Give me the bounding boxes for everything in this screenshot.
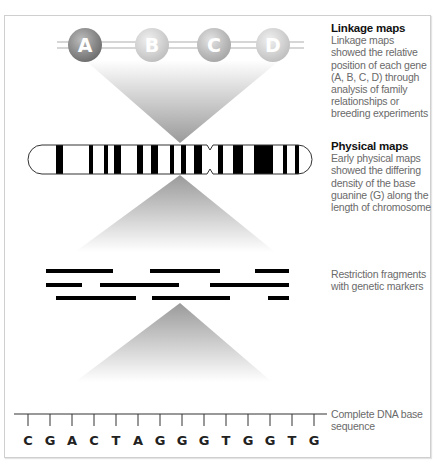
- base-letter: T: [112, 433, 121, 448]
- funnel-physical-to-restriction: [75, 175, 275, 252]
- base-letter: G: [45, 433, 56, 448]
- restriction-fragment: [100, 283, 179, 287]
- gene-d: D: [256, 28, 290, 62]
- chromosome-band: [56, 145, 63, 174]
- base-letter: G: [199, 433, 210, 448]
- caption-text: Early physical maps showed the differing…: [331, 152, 431, 213]
- gene-label: A: [78, 34, 93, 56]
- chromosome-band: [194, 145, 202, 174]
- restriction-fragment: [152, 296, 230, 300]
- caption-linkage-maps: Linkage maps Linkage maps showed the rel…: [331, 22, 431, 120]
- base-letter: G: [243, 433, 254, 448]
- chromosome-band: [254, 145, 273, 174]
- funnel-linkage-to-physical: [85, 60, 280, 143]
- chromosome-band: [283, 145, 287, 174]
- chromosome-band: [114, 145, 121, 174]
- chromosome-band: [151, 145, 158, 174]
- base-letter: T: [288, 433, 297, 448]
- gene-label: C: [207, 34, 221, 56]
- restriction-fragments: [46, 269, 289, 300]
- restriction-fragment: [46, 269, 113, 273]
- base-letter: C: [89, 433, 99, 448]
- gene-b: B: [135, 28, 169, 62]
- caption-title: Linkage maps: [331, 22, 431, 34]
- chromosome-band: [170, 145, 174, 174]
- chromosome-band: [233, 145, 243, 174]
- gene-markers: ABCD: [68, 28, 290, 62]
- gene-label: B: [145, 34, 159, 56]
- base-letter: G: [155, 433, 166, 448]
- base-letter: A: [67, 433, 77, 448]
- caption-restriction-fragments: Restriction fragments with genetic marke…: [331, 268, 431, 292]
- gene-a: A: [68, 28, 102, 62]
- base-letter: A: [133, 433, 143, 448]
- chromosome: [28, 145, 312, 174]
- caption-title: Physical maps: [331, 140, 431, 152]
- restriction-fragment: [268, 296, 289, 300]
- base-letter: G: [309, 433, 320, 448]
- base-letter: G: [265, 433, 276, 448]
- chromosome-band: [104, 145, 108, 174]
- base-letter: C: [23, 433, 33, 448]
- restriction-fragment: [150, 269, 220, 273]
- gene-label: D: [265, 34, 281, 56]
- chromosome-band: [295, 145, 299, 174]
- caption-text: Complete DNA base sequence: [331, 408, 423, 432]
- restriction-fragment: [56, 296, 136, 300]
- caption-dna-sequence: Complete DNA base sequence: [331, 408, 431, 432]
- base-letter: T: [222, 433, 231, 448]
- caption-text: Linkage maps showed the relative positio…: [331, 34, 428, 119]
- base-letter: G: [177, 433, 188, 448]
- restriction-fragment: [46, 283, 82, 287]
- caption-text: Restriction fragments with genetic marke…: [331, 268, 426, 292]
- caption-physical-maps: Physical maps Early physical maps showed…: [331, 140, 431, 213]
- chromosome-band: [181, 145, 186, 174]
- dna-sequence: CGACTAGGGTGGTG: [14, 414, 327, 448]
- chromosome-band: [89, 145, 93, 174]
- gene-c: C: [197, 28, 231, 62]
- funnel-restriction-to-dna: [75, 303, 272, 382]
- chromosome-band: [218, 145, 223, 174]
- chromosome-band: [137, 145, 143, 174]
- restriction-fragment: [210, 283, 289, 287]
- restriction-fragment: [255, 269, 289, 273]
